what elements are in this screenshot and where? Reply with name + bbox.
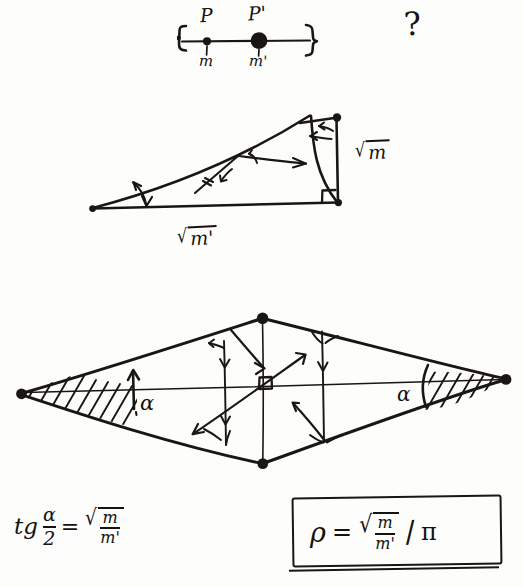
radical-sign: √ [176, 226, 187, 248]
top-figure-group [177, 25, 317, 56]
formula-function-tg: tg [14, 515, 38, 538]
point-p-prime-label: P' [248, 4, 267, 24]
radical-sign: √ [85, 507, 97, 548]
radical-sign: √ [359, 512, 372, 553]
formula-alpha: α [43, 505, 56, 526]
tangent-half-angle-formula: tg α 2 = √ m m' [14, 505, 124, 549]
radicand: m [366, 139, 391, 162]
pi-symbol: π [421, 520, 437, 544]
question-mark: ? [403, 7, 422, 40]
note-sheet: P P' m m' ? √ m √ m' α α tg α 2 = √ m [0, 0, 523, 587]
radicand: m' [188, 225, 218, 248]
rho-denominator-m-prime: m' [375, 533, 395, 553]
rho-numerator-m: m [377, 515, 392, 533]
division-slash: / [404, 517, 416, 548]
angle-alpha-left-label: α [140, 393, 154, 414]
point-p-label: P [200, 6, 214, 26]
radical-sign: √ [354, 140, 365, 162]
angle-alpha-right-label: α [397, 384, 411, 404]
mass-m-prime-label: m' [249, 54, 268, 70]
equals-sign: = [61, 516, 79, 538]
equals-sign: = [332, 520, 352, 544]
formula-denominator-m-prime: m' [100, 527, 120, 547]
triangle-leg-vertical-label: √ m [354, 139, 391, 163]
formula-two: 2 [43, 526, 56, 549]
mass-m-label: m [199, 54, 214, 69]
formula-numerator-m: m [102, 510, 117, 528]
triangle-figure-group [89, 113, 342, 212]
rho-symbol: ρ [310, 519, 326, 546]
rhombus-figure-group [16, 313, 522, 470]
rho-formula: ρ = √ m m' / π [310, 512, 437, 553]
triangle-leg-horizontal-label: √ m' [176, 225, 218, 249]
